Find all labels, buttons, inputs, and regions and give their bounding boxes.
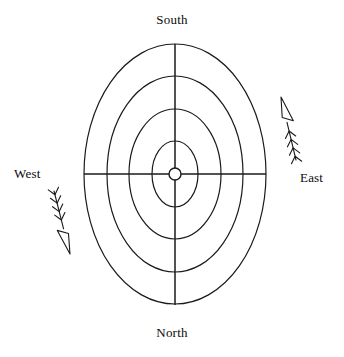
axis-label-west: West [14, 166, 40, 182]
west-arrow-barb-path [48, 187, 65, 220]
east-feathered-arrow [281, 97, 302, 164]
east-arrow-shaft [287, 122, 296, 160]
west-feathered-arrow [48, 187, 70, 254]
west-arrow-head [57, 230, 70, 254]
axis-label-north: North [0, 325, 344, 341]
polar-compass-figure: South North West East [0, 0, 344, 357]
axis-label-east: East [300, 170, 323, 186]
axis-label-south: South [0, 12, 344, 28]
east-arrow-barb-path [285, 131, 301, 164]
east-arrow-head [281, 97, 293, 121]
west-arrow-shaft [54, 191, 64, 229]
origin-node [169, 168, 181, 180]
west-arrow-barbs [48, 187, 65, 220]
east-arrow-barbs [285, 131, 301, 164]
diagram-canvas [0, 0, 344, 357]
